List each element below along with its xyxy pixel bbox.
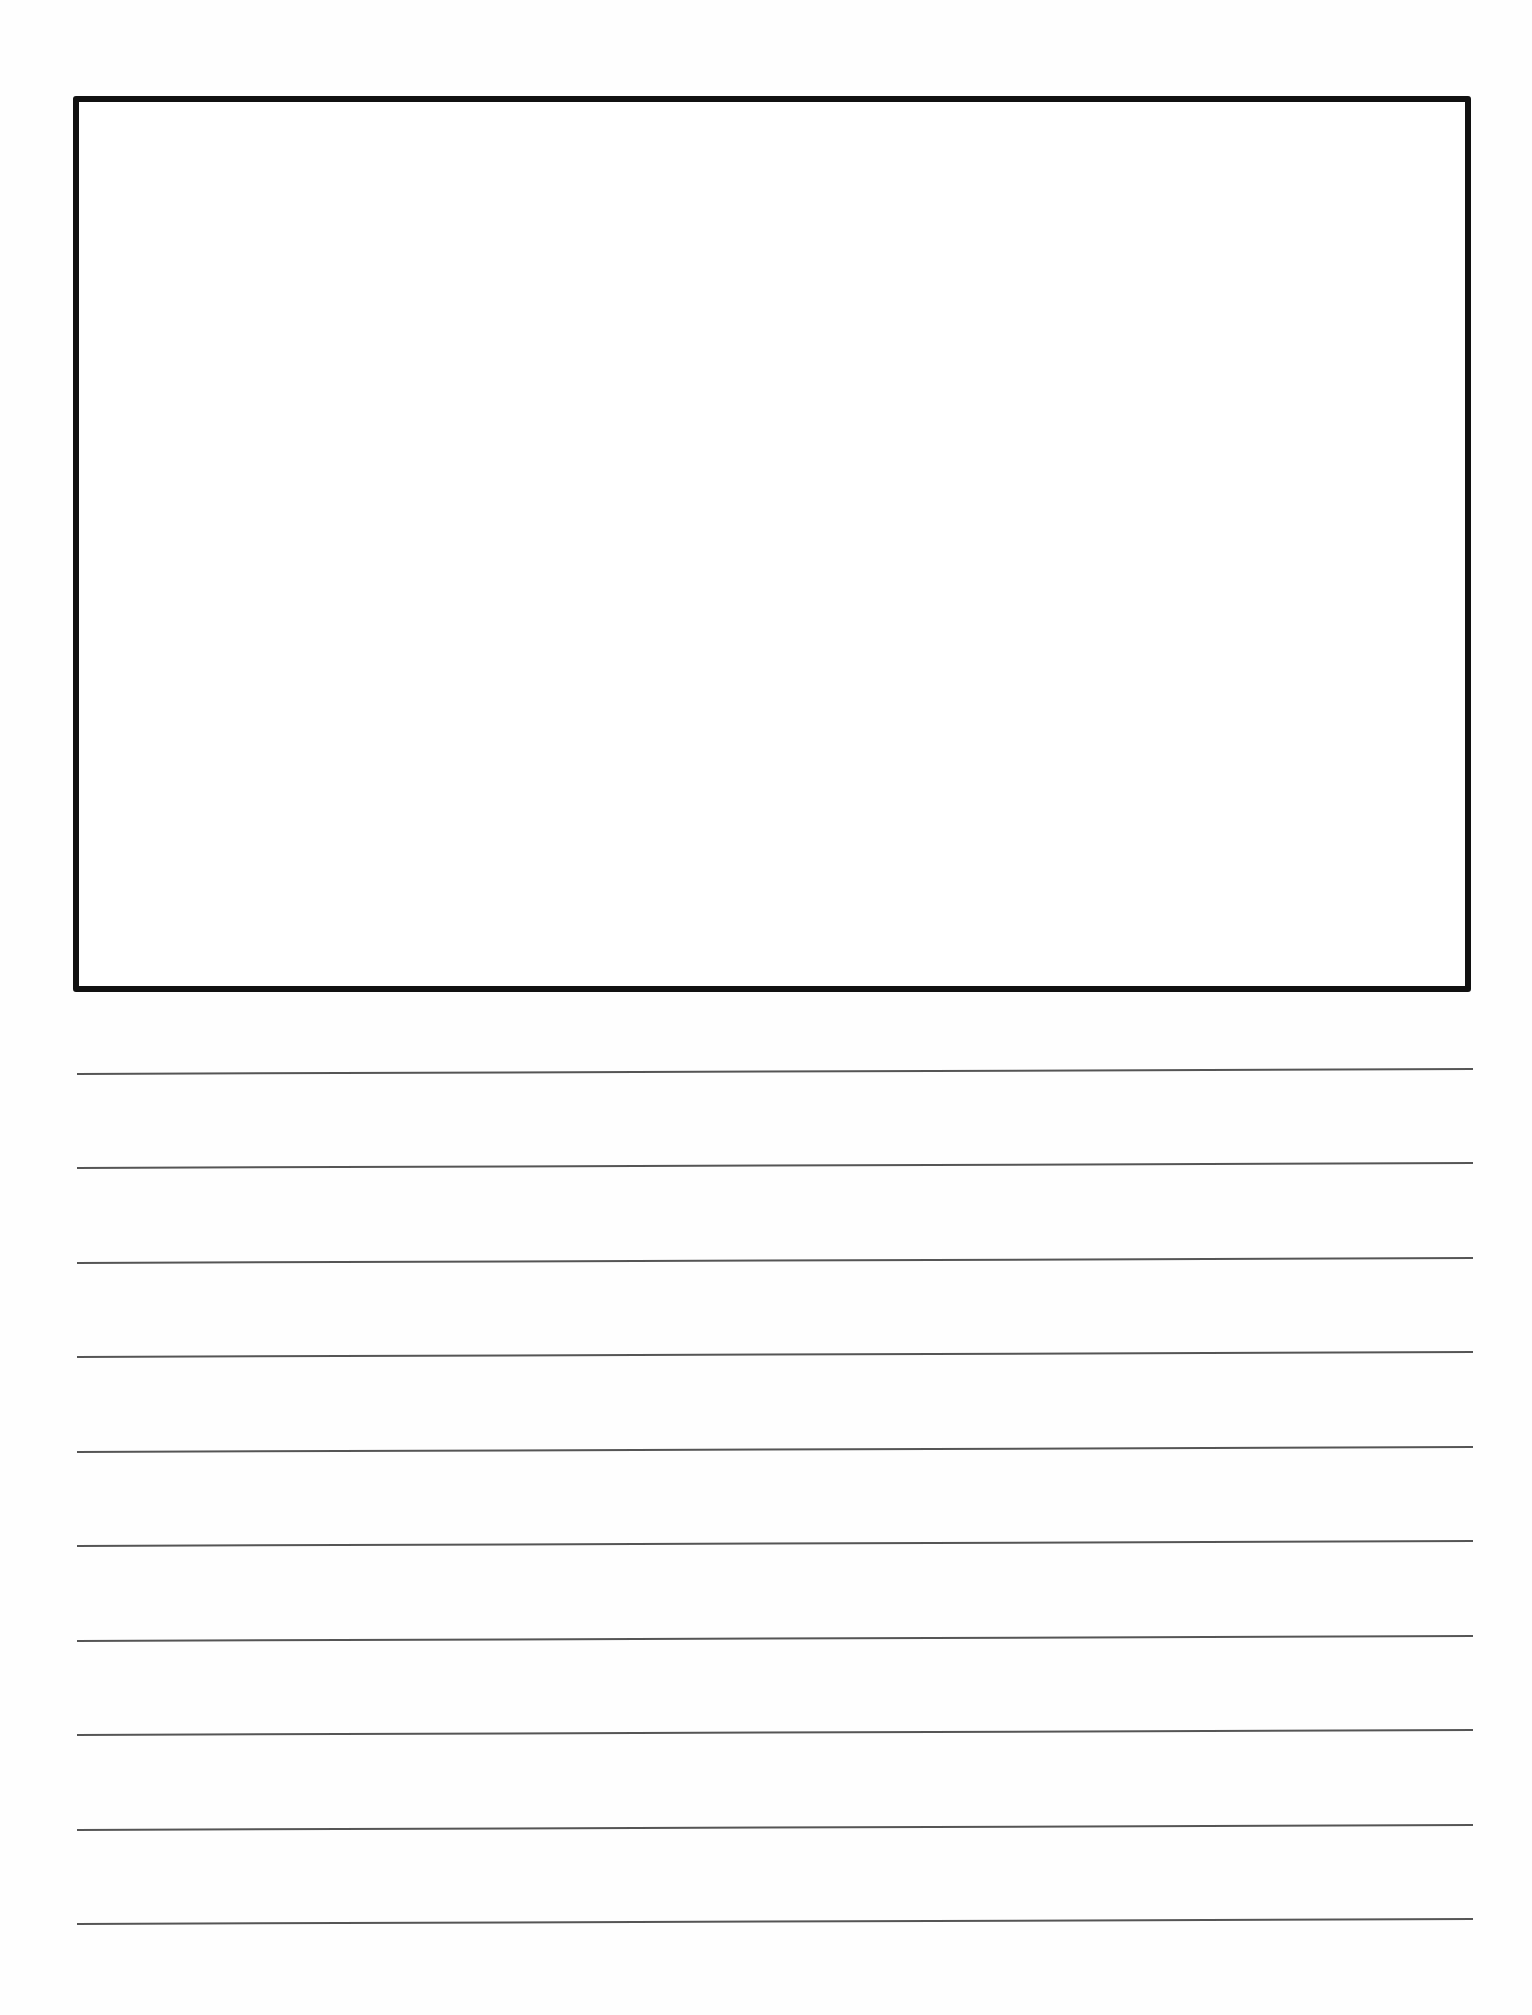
writing-line — [77, 1636, 1473, 1641]
writing-line — [77, 1069, 1473, 1074]
writing-line — [77, 1258, 1473, 1263]
writing-line — [77, 1352, 1473, 1357]
writing-line — [77, 1447, 1473, 1452]
writing-line — [77, 1163, 1473, 1168]
writing-line — [77, 1730, 1473, 1735]
worksheet-page — [0, 0, 1532, 2015]
writing-line — [77, 1825, 1473, 1830]
writing-line — [77, 1919, 1473, 1924]
writing-lines — [0, 0, 1532, 2015]
writing-line — [77, 1541, 1473, 1546]
